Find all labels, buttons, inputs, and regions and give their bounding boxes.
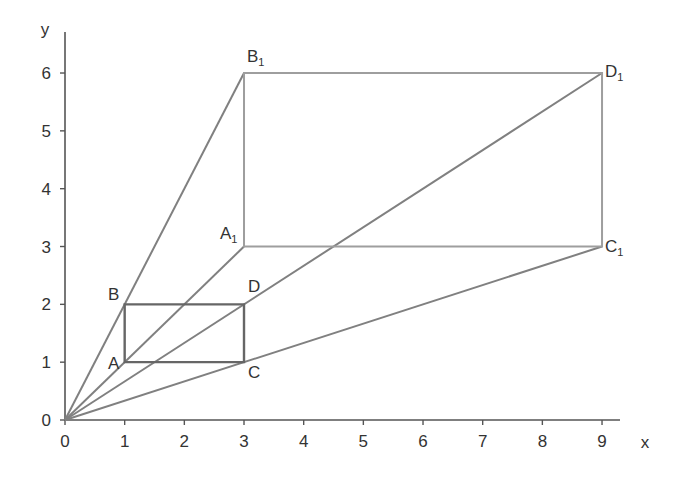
x-tick-label: 6: [418, 432, 427, 451]
x-axis-label: x: [641, 433, 650, 452]
x-tick-label: 0: [60, 432, 69, 451]
y-tick-label: 2: [42, 295, 51, 314]
x-tick-label: 3: [239, 432, 248, 451]
rectangle-abdc: [125, 304, 244, 362]
point-label-a: A: [108, 354, 120, 373]
y-tick-label: 3: [42, 238, 51, 257]
y-tick-label: 4: [42, 180, 51, 199]
subscript: 1: [617, 71, 623, 83]
y-tick-label: 1: [42, 353, 51, 372]
ray-c1: [65, 247, 602, 420]
x-tick-label: 8: [538, 432, 547, 451]
point-label-c: C: [248, 363, 260, 382]
point-label-d1: D1: [605, 62, 623, 83]
subscript: 1: [231, 233, 237, 245]
y-tick-label: 6: [42, 64, 51, 83]
point-label-d: D: [248, 277, 260, 296]
x-tick-label: 7: [478, 432, 487, 451]
x-tick-label: 4: [299, 432, 308, 451]
point-label-c1: C1: [605, 237, 623, 258]
x-tick-label: 5: [359, 432, 368, 451]
rectangle-a1b1d1c1: [244, 73, 602, 246]
point-label-b1: B1: [247, 47, 264, 68]
y-tick-label: 5: [42, 122, 51, 141]
point-label-b: B: [108, 285, 119, 304]
y-tick-label: 0: [42, 411, 51, 430]
ray-b1: [65, 73, 244, 420]
x-tick-label: 1: [120, 432, 129, 451]
x-tick-label: 9: [597, 432, 606, 451]
subscript: 1: [258, 56, 264, 68]
diagram-canvas: 01234567890123456xyABCDA1B1C1D1: [0, 0, 681, 477]
ray-a1: [65, 247, 244, 420]
point-label-a1: A1: [220, 224, 237, 245]
x-tick-label: 2: [180, 432, 189, 451]
subscript: 1: [617, 246, 623, 258]
y-axis-label: y: [41, 20, 50, 39]
enlargement-diagram: 01234567890123456xyABCDA1B1C1D1: [0, 0, 681, 477]
